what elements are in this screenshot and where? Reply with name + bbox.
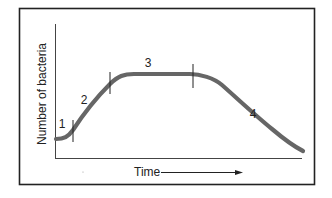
speck — [82, 171, 83, 172]
phase-label-4: 4 — [250, 107, 257, 121]
x-axis-label: Time — [134, 165, 161, 179]
phase-label-3: 3 — [145, 56, 152, 70]
growth-curve — [56, 74, 303, 151]
bacterial-growth-chart: 1 2 3 4 Number of bacteria Time — [0, 0, 332, 198]
time-arrow-head-icon — [235, 170, 243, 175]
phase-label-1: 1 — [59, 117, 66, 131]
phase-label-2: 2 — [81, 93, 88, 107]
y-axis-label: Number of bacteria — [35, 43, 49, 145]
